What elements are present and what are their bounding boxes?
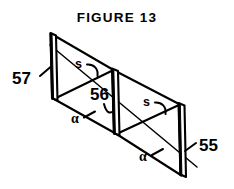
spacing-label-2-group: s — [143, 95, 166, 114]
ref-55-label: 55 — [199, 136, 218, 155]
angle-label-1-group: α — [71, 111, 95, 126]
right-plate — [178, 103, 186, 177]
ref-55-group: 55 — [185, 136, 218, 155]
ref-57-group: 57 — [12, 67, 51, 88]
figure-drawing: 57 56 55 s s α α — [0, 0, 234, 189]
ref-56-group: 56 — [90, 85, 114, 113]
angle-label-1: α — [71, 111, 79, 126]
spacing-label-1: s — [75, 57, 82, 71]
ref-56-label: 56 — [90, 85, 109, 104]
angle-leader-1 — [84, 112, 95, 118]
figure-root: FIGURE 13 — [0, 0, 234, 189]
angle-label-2: α — [139, 149, 147, 164]
angle-leader-2 — [152, 149, 163, 155]
ref-55-leader — [185, 143, 196, 151]
ref-57-leader — [40, 67, 51, 76]
spacing-label-2: s — [143, 95, 150, 109]
spacing-arc-1 — [87, 64, 98, 76]
ref-57-label: 57 — [12, 69, 31, 88]
middle-plate — [112, 69, 120, 136]
